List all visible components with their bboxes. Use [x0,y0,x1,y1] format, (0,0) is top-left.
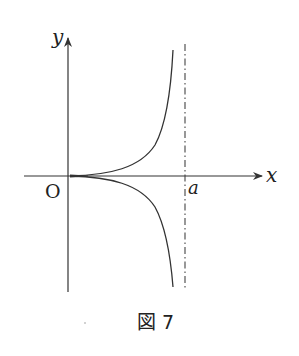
x-axis-label: x [266,163,277,187]
stray-dot [84,322,86,324]
y-axis-label: y [51,25,64,49]
upper-curve [70,50,173,176]
asymptote-label: a [188,177,199,198]
figure-caption: 図 7 [137,311,174,333]
lower-curve [70,176,173,287]
origin-label: O [45,180,61,202]
diagram-figure: y x O a 図 7 [0,0,299,356]
